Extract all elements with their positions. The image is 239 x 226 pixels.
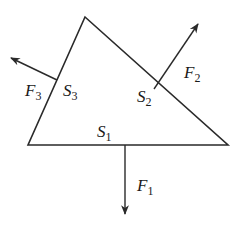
label-f3: F3	[24, 81, 41, 103]
label-s3: S3	[63, 81, 78, 103]
label-s1: S1	[97, 122, 112, 144]
label-f2: F2	[183, 63, 200, 85]
force-arrow-f3	[11, 58, 57, 80]
label-f1: F1	[136, 176, 153, 198]
label-s2: S2	[137, 87, 152, 109]
force-diagram: S1 S2 S3 F1 F2 F3	[0, 0, 239, 226]
